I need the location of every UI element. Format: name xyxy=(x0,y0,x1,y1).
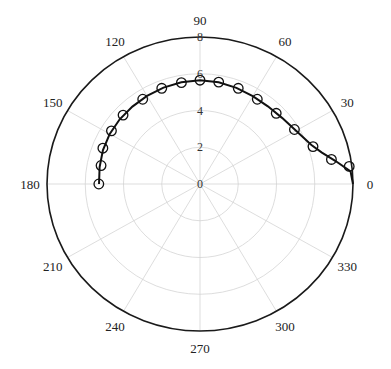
radius-tick-label: 8 xyxy=(197,30,203,44)
grid-spoke xyxy=(67,184,200,258)
angle-tick-label: 180 xyxy=(20,177,40,192)
angle-tick-label: 30 xyxy=(341,95,354,110)
grid-spoke xyxy=(200,184,277,311)
fit-line-path xyxy=(99,80,353,184)
radius-tick-label: 4 xyxy=(197,104,203,118)
angle-tick-label: 0 xyxy=(367,177,374,192)
angle-tick-label: 300 xyxy=(275,319,295,334)
radius-tick-label: 6 xyxy=(197,67,203,81)
angle-tick-label: 270 xyxy=(190,341,210,356)
angle-tick-label: 150 xyxy=(43,95,63,110)
grid-spoke xyxy=(124,57,201,184)
grid-spoke xyxy=(67,111,200,185)
angle-tick-label: 240 xyxy=(105,319,125,334)
data-markers xyxy=(94,75,354,188)
grid-spoke xyxy=(124,184,201,311)
radius-tick-label: 0 xyxy=(197,177,203,191)
grid-spoke xyxy=(200,184,333,258)
fit-curve xyxy=(99,80,353,184)
grid-spoke xyxy=(200,57,277,184)
angle-tick-label: 330 xyxy=(337,259,357,274)
angle-tick-label: 120 xyxy=(105,34,125,49)
angle-tick-label: 210 xyxy=(43,259,63,274)
angle-tick-label: 60 xyxy=(279,34,292,49)
grid-spoke xyxy=(200,111,333,185)
angle-tick-label: 90 xyxy=(194,13,207,28)
radius-tick-label: 2 xyxy=(197,140,203,154)
polar-chart: 0306090120150180210240270300330 02468 xyxy=(0,0,391,369)
